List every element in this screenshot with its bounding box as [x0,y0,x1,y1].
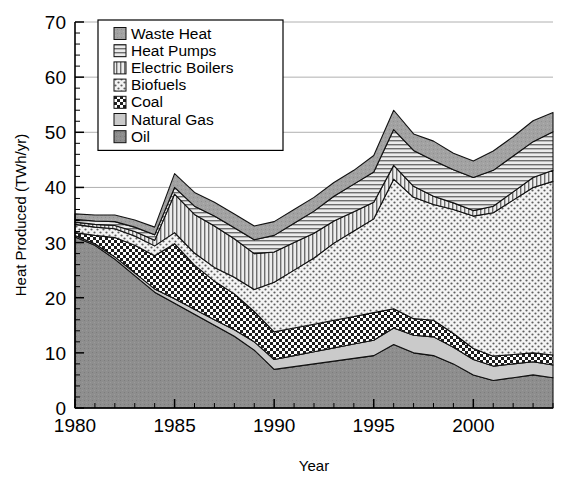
legend-item-electric-boilers[interactable]: Electric Boilers [114,59,234,76]
legend-label: Electric Boilers [131,59,234,76]
y-tick-label: 60 [45,67,66,88]
x-axis-title: Year [299,457,329,474]
legend-label: Oil [131,128,150,145]
x-tick-label: 1995 [353,415,395,436]
legend-label: Biofuels [131,76,186,93]
coal-swatch [114,96,126,108]
waste-heat-swatch [114,28,126,40]
chart-legend[interactable]: Waste HeatHeat PumpsElectric BoilersBiof… [98,20,283,150]
y-tick-label: 50 [45,122,66,143]
y-axis-title: Heat Produced (TWh/yr) [12,134,29,297]
area-series-layer [75,110,553,408]
x-tick-label: 1980 [54,415,96,436]
x-tick-label: 2000 [452,415,494,436]
stacked-area-chart: 01020304050607019801985199019952000 Wast… [0,0,578,481]
y-tick-label: 40 [45,177,66,198]
heat-pumps-swatch [114,45,126,57]
legend-label: Heat Pumps [131,42,217,59]
oil-swatch [114,131,126,143]
biofuels-swatch [114,79,126,91]
chart-canvas: 01020304050607019801985199019952000 Wast… [0,0,578,481]
x-tick-label: 1990 [253,415,295,436]
x-tick-label: 1985 [153,415,195,436]
legend-label: Coal [131,93,163,110]
legend-item-oil[interactable]: Oil [114,128,150,145]
legend-label: Natural Gas [131,111,214,128]
electric-boilers-swatch [114,62,126,74]
legend-item-coal[interactable]: Coal [114,93,163,110]
y-tick-label: 70 [45,12,66,33]
natural-gas-swatch [114,114,126,126]
y-tick-label: 20 [45,288,66,309]
legend-item-biofuels[interactable]: Biofuels [114,76,186,93]
y-tick-label: 30 [45,233,66,254]
legend-label: Waste Heat [131,25,212,42]
y-tick-label: 10 [45,343,66,364]
